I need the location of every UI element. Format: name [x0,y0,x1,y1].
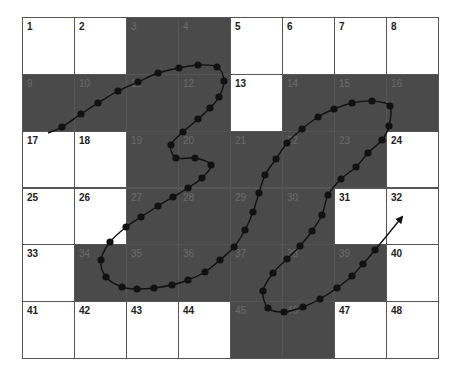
grid-cell-7: 7 [334,17,387,75]
grid-cell-47: 47 [334,301,387,359]
cell-number: 14 [287,78,298,89]
grid-cell-15: 15 [334,74,387,132]
grid-cell-5: 5 [230,17,283,75]
cell-number: 45 [235,305,246,316]
cell-number: 39 [339,248,350,259]
cell-number: 12 [183,78,194,89]
cell-number: 22 [287,135,298,146]
grid-cell-41: 41 [22,301,75,359]
cell-number: 34 [79,248,90,259]
grid-cell-37: 37 [230,244,283,302]
cell-number: 19 [131,135,142,146]
cell-number: 4 [183,21,189,32]
grid-cell-26: 26 [74,188,127,246]
grid-cell-24: 24 [386,131,439,189]
grid-cell-20: 20 [178,131,231,189]
grid-cell-1: 1 [22,17,75,75]
cell-number: 44 [183,305,194,316]
grid-cell-22: 22 [282,131,335,189]
grid-cell-11: 11 [126,74,179,132]
grid-cell-30: 30 [282,188,335,246]
grid-cell-34: 34 [74,244,127,302]
grid-cell-13: 13 [230,74,283,132]
grid-cell-27: 27 [126,188,179,246]
cell-number: 24 [391,135,402,146]
cell-number: 3 [131,21,137,32]
cell-number: 20 [183,135,194,146]
grid-cell-14: 14 [282,74,335,132]
grid-cell-35: 35 [126,244,179,302]
grid-cell-2: 2 [74,17,127,75]
cell-number: 10 [79,78,90,89]
grid-cell-40: 40 [386,244,439,302]
grid-cell-36: 36 [178,244,231,302]
grid-cell-8: 8 [386,17,439,75]
cell-number: 41 [27,305,38,316]
cell-number: 31 [339,192,350,203]
grid-cell-9: 9 [22,74,75,132]
grid-cell-12: 12 [178,74,231,132]
cell-number: 6 [287,21,293,32]
grid-cell-44: 44 [178,301,231,359]
cell-number: 33 [27,248,38,259]
grid-cell-16: 16 [386,74,439,132]
cell-number: 2 [79,21,85,32]
grid-cell-6: 6 [282,17,335,75]
cell-number: 8 [391,21,397,32]
grid-cell-39: 39 [334,244,387,302]
cell-number: 37 [235,248,246,259]
grid-cell-29: 29 [230,188,283,246]
cell-number: 16 [391,78,402,89]
grid-cell-46: 46 [282,301,335,359]
grid-cell-21: 21 [230,131,283,189]
grid-cell-17: 17 [22,131,75,189]
grid-cell-23: 23 [334,131,387,189]
cell-number: 21 [235,135,246,146]
cell-number: 11 [131,78,141,89]
grid-cell-38: 38 [282,244,335,302]
grid-cell-32: 32 [386,188,439,246]
grid-cell-43: 43 [126,301,179,359]
numbered-grid: 1234567891011121314151617181920212223242… [22,17,438,358]
cell-number: 26 [79,192,90,203]
cell-number: 9 [27,78,33,89]
cell-number: 18 [79,135,90,146]
cell-number: 32 [391,192,402,203]
cell-number: 46 [287,305,298,316]
cell-number: 1 [27,21,33,32]
cell-number: 40 [391,248,402,259]
grid-cell-3: 3 [126,17,179,75]
cell-number: 30 [287,192,298,203]
cell-number: 36 [183,248,194,259]
cell-number: 28 [183,192,194,203]
grid-cell-25: 25 [22,188,75,246]
grid-cell-4: 4 [178,17,231,75]
cell-number: 13 [235,78,246,89]
cell-number: 29 [235,192,246,203]
cell-number: 42 [79,305,90,316]
cell-number: 27 [131,192,142,203]
cell-number: 5 [235,21,241,32]
grid-cell-18: 18 [74,131,127,189]
cell-number: 43 [131,305,142,316]
grid-cell-33: 33 [22,244,75,302]
grid-cell-31: 31 [334,188,387,246]
cell-number: 38 [287,248,298,259]
cell-number: 25 [27,192,38,203]
grid-cell-28: 28 [178,188,231,246]
grid-cell-45: 45 [230,301,283,359]
cell-number: 7 [339,21,345,32]
cell-number: 48 [391,305,402,316]
cell-number: 47 [339,305,350,316]
grid-cell-10: 10 [74,74,127,132]
grid-cell-48: 48 [386,301,439,359]
cell-number: 23 [339,135,350,146]
grid-cell-19: 19 [126,131,179,189]
grid-cell-42: 42 [74,301,127,359]
cell-number: 35 [131,248,142,259]
cell-number: 17 [27,135,38,146]
cell-number: 15 [339,78,350,89]
